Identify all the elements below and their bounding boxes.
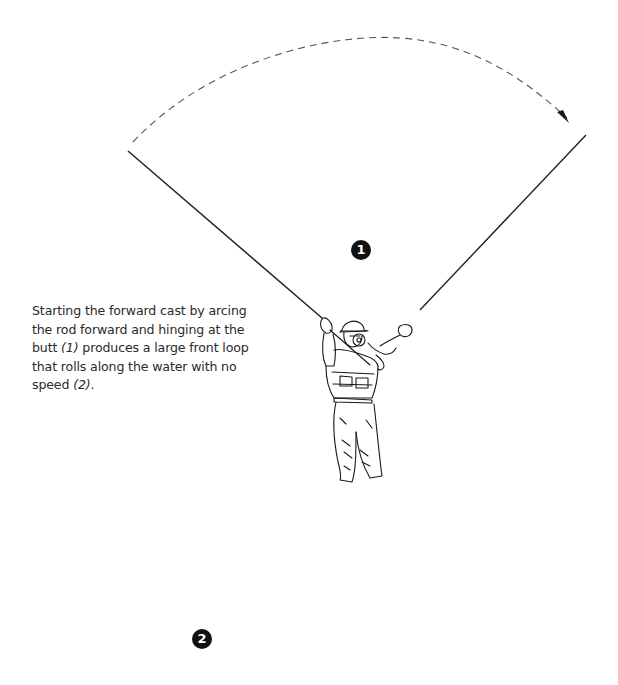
caption-ref-1: (1): [61, 340, 78, 355]
step-marker-1-number: 1: [356, 242, 365, 257]
angler-casting-figure: [321, 318, 412, 482]
rod-forward-line: [420, 135, 586, 310]
figure-caption: Starting the forward cast by arcing the …: [32, 302, 262, 395]
rod-back-line: [128, 151, 322, 318]
dashed-arc-arrow-icon: [133, 37, 569, 142]
step-marker-2: 2: [192, 629, 212, 649]
caption-text-part3: .: [91, 377, 95, 392]
step-marker-1: 1: [351, 240, 371, 260]
caption-ref-2: (2): [73, 377, 90, 392]
step-marker-2-number: 2: [197, 631, 206, 646]
